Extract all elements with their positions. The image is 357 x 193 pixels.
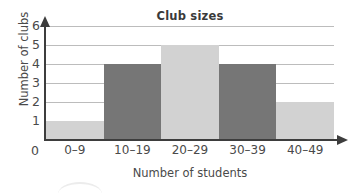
bar — [219, 64, 277, 140]
x-tick-label: 40–49 — [276, 143, 334, 157]
x-tick-label: 0–9 — [46, 143, 104, 157]
chart-title: Club sizes — [47, 9, 333, 23]
bar-chart: Club sizes Number of clubs 0 0–910–1920–… — [0, 0, 357, 193]
x-axis-line — [44, 139, 339, 141]
y-tick-label: 2 — [26, 96, 40, 109]
x-tick-label: 20–29 — [161, 143, 219, 157]
x-tick-label: 10–19 — [104, 143, 162, 157]
x-axis-arrow-icon — [337, 135, 348, 145]
y-axis-line — [44, 26, 46, 141]
bar — [104, 64, 162, 140]
y-tick-label: 4 — [26, 58, 40, 71]
x-tick-labels: 0–910–1920–2930–3940–49 — [46, 143, 334, 161]
scan-artifact — [58, 182, 102, 193]
x-tick-label: 30–39 — [219, 143, 277, 157]
y-tick-label: 3 — [26, 77, 40, 90]
y-tick-label: 6 — [26, 20, 40, 33]
origin-tick-label: 0 — [28, 143, 42, 158]
bar — [276, 102, 334, 140]
bar — [46, 121, 104, 140]
y-tick-label: 5 — [26, 39, 40, 52]
y-axis-arrow-icon — [40, 16, 50, 27]
x-axis-label: Number of students — [47, 166, 333, 180]
bar — [161, 45, 219, 140]
y-tick-label: 1 — [26, 115, 40, 128]
plot-area — [46, 26, 334, 140]
gridline — [46, 26, 334, 27]
